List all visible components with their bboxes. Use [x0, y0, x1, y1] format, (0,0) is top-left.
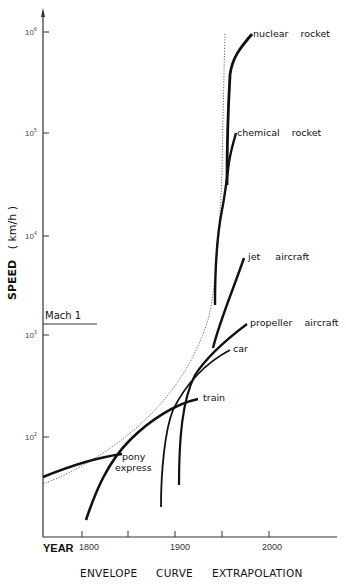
label-jet-aircraft: jet aircraft	[248, 251, 309, 262]
caption-extrapolation: EXTRAPOLATION	[212, 567, 303, 579]
series-jet	[213, 258, 244, 348]
y-ticks	[43, 32, 49, 437]
label-express: express	[115, 462, 152, 473]
ytick-label-1e2: 102	[25, 431, 37, 442]
series-chemical-rocket	[215, 133, 236, 305]
ytick-label-1e5: 105	[25, 127, 37, 138]
ytick-label-1e6: 106	[25, 26, 37, 37]
envelope-curve	[43, 33, 225, 484]
series-nuclear-rocket	[227, 34, 252, 185]
label-pony: pony	[122, 451, 146, 462]
xtick-label-1800: 1800	[79, 542, 99, 552]
chart-canvas	[0, 0, 346, 587]
caption-envelope: ENVELOPE	[80, 567, 137, 579]
xtick-label-2000: 2000	[262, 542, 282, 552]
caption-curve: CURVE	[156, 567, 193, 579]
label-chemical-rocket: chemical rocket	[237, 127, 321, 138]
x-ticks	[82, 531, 269, 537]
x-axis-label: YEAR	[43, 542, 74, 554]
ytick-label-1e3: 103	[25, 329, 37, 340]
label-propeller-aircraft: propeller aircraft	[250, 317, 339, 328]
y-axis-label: SPEED ( km/h )	[6, 206, 19, 300]
label-car: car	[233, 343, 248, 354]
ytick-label-1e4: 104	[25, 230, 37, 241]
label-nuclear-rocket: nuclear rocket	[253, 28, 330, 39]
y-axis-arrow-icon	[41, 8, 45, 17]
mach-1-label: Mach 1	[45, 310, 81, 321]
label-train: train	[203, 392, 225, 403]
xtick-label-1900: 1900	[170, 542, 190, 552]
